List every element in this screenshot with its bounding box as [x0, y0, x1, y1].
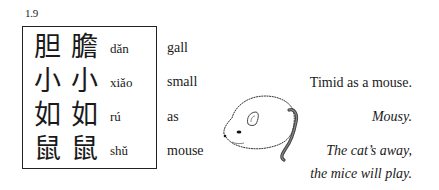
- proverb-line-2: the mice will play.: [310, 164, 412, 184]
- character-form-2: 如: [71, 98, 98, 132]
- figure-number: 1.9: [25, 7, 38, 19]
- gloss: small: [167, 72, 197, 92]
- character-form-1: 胆: [34, 30, 61, 64]
- character-row: 小 小 xiǎo: [23, 64, 156, 98]
- character-form-2: 小: [71, 64, 98, 98]
- idiomatic-translation: Mousy.: [372, 107, 412, 127]
- character-row: 鼠 鼠 shǔ: [23, 132, 156, 166]
- literal-translation: Timid as a mouse.: [310, 73, 412, 93]
- pinyin: rú: [110, 107, 121, 127]
- pinyin: dǎn: [110, 39, 129, 59]
- character-form-2: 鼠: [71, 132, 98, 166]
- character-form-1: 如: [34, 98, 61, 132]
- proverb-line-1: The cat’s away,: [326, 141, 412, 161]
- gloss: mouse: [167, 141, 204, 161]
- character-row: 胆 膽 dǎn: [23, 30, 156, 64]
- character-form-1: 鼠: [34, 132, 61, 166]
- character-form-2: 膽: [71, 30, 98, 64]
- character-form-1: 小: [34, 64, 61, 98]
- character-box: 胆 膽 dǎn 小 小 xiǎo 如 如 rú 鼠 鼠 shǔ: [22, 26, 157, 169]
- gloss: as: [167, 107, 179, 127]
- pinyin: shǔ: [110, 141, 128, 161]
- character-row: 如 如 rú: [23, 98, 156, 132]
- pinyin: xiǎo: [110, 73, 132, 93]
- mouse-illustration-icon: [220, 88, 308, 164]
- gloss: gall: [167, 38, 188, 58]
